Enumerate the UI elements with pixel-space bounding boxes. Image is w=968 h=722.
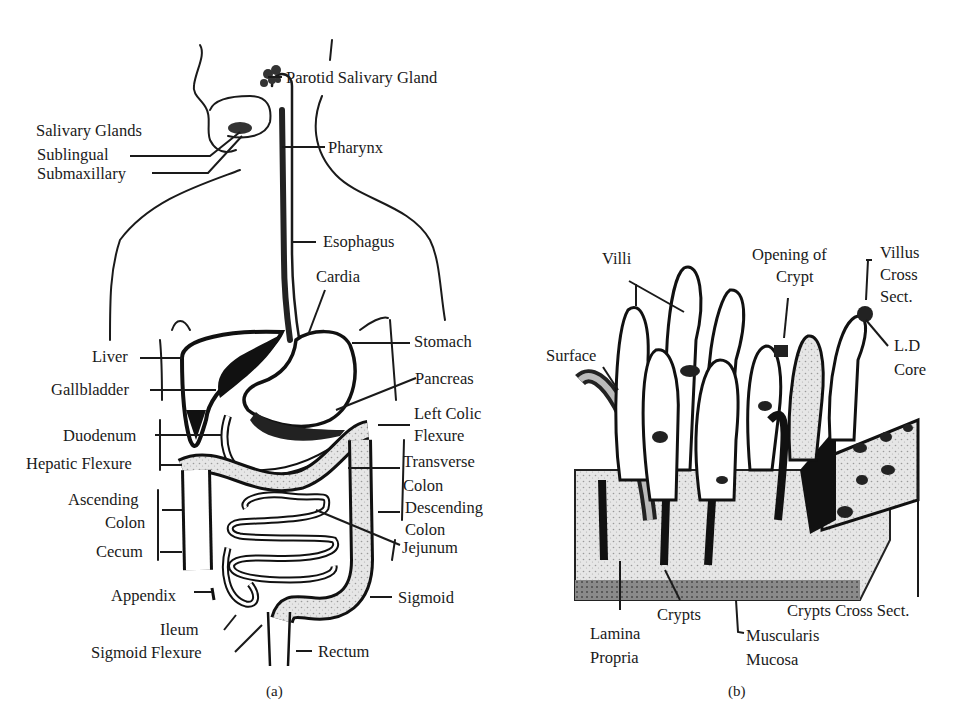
- label-rectum: Rectum: [318, 642, 369, 661]
- label-pancreas: Pancreas: [415, 369, 474, 388]
- label-opening-of: Opening of: [752, 245, 827, 264]
- label-esophagus: Esophagus: [323, 232, 395, 251]
- label-sublingual: Sublingual: [37, 145, 109, 164]
- label-surface: Surface: [546, 346, 596, 365]
- label-villus-cross: Cross: [880, 265, 918, 284]
- label-ld: L.D: [894, 336, 920, 355]
- label-crypts-cross-sect: Crypts Cross Sect.: [787, 601, 909, 620]
- label-transverse-colon: Colon: [403, 476, 443, 495]
- label-lamina: Lamina: [590, 624, 640, 643]
- label-villi: Villi: [602, 249, 631, 268]
- caption-a: (a): [266, 683, 283, 700]
- label-sigmoid: Sigmoid: [398, 588, 454, 607]
- label-left-colic: Left Colic: [414, 404, 481, 423]
- label-cecum: Cecum: [96, 542, 143, 561]
- label-lamina-propria: Propria: [590, 648, 639, 667]
- label-descending: Descending: [405, 498, 483, 517]
- label-ascending: Ascending: [68, 490, 139, 509]
- label-ascending-colon: Colon: [105, 513, 145, 532]
- label-jejunum: Jejunum: [402, 538, 458, 557]
- label-left-colic-flexure: Flexure: [414, 426, 464, 445]
- caption-b: (b): [728, 683, 746, 700]
- label-hepatic-flexure: Hepatic Flexure: [26, 454, 132, 473]
- label-opening-crypt: Crypt: [776, 267, 814, 286]
- label-ileum: Ileum: [160, 620, 199, 639]
- label-duodenum: Duodenum: [63, 426, 136, 445]
- digestive-system-figure: Parotid Salivary Gland Salivary Glands S…: [0, 0, 968, 722]
- label-villus: Villus: [880, 243, 919, 262]
- label-appendix: Appendix: [111, 586, 176, 605]
- label-crypts: Crypts: [657, 605, 701, 624]
- label-pharynx: Pharynx: [328, 138, 383, 157]
- label-villus-sect: Sect.: [880, 287, 913, 306]
- label-liver: Liver: [92, 347, 128, 366]
- intestinal-wall-block: [575, 267, 918, 600]
- label-gallbladder: Gallbladder: [51, 380, 129, 399]
- label-cardia: Cardia: [316, 267, 360, 286]
- label-submaxillary: Submaxillary: [37, 164, 126, 183]
- label-mucosa: Mucosa: [746, 650, 798, 669]
- label-ld-core: Core: [894, 360, 926, 379]
- label-salivary-glands: Salivary Glands: [36, 121, 142, 140]
- label-descending-colon: Colon: [405, 520, 445, 539]
- label-sigmoid-flexure: Sigmoid Flexure: [91, 643, 201, 662]
- label-transverse: Transverse: [403, 452, 475, 471]
- label-stomach: Stomach: [414, 332, 472, 351]
- label-muscularis: Muscularis: [746, 626, 819, 645]
- label-parotid-salivary-gland: Parotid Salivary Gland: [286, 68, 437, 87]
